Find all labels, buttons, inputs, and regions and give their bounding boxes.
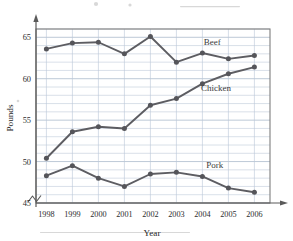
data-point [44, 173, 49, 178]
line-chart: 4550556065 19981999200020012002200320042… [0, 0, 293, 241]
data-point [174, 170, 179, 175]
data-point [44, 156, 49, 161]
x-tick-label: 2005 [220, 210, 236, 219]
x-axis-tick-labels: 199819992000200120022003200420052006 [38, 210, 262, 219]
y-axis-title: Pounds [5, 104, 15, 131]
data-point [252, 53, 257, 58]
x-tick-label: 2000 [90, 210, 106, 219]
data-point [200, 174, 205, 179]
x-axis-arrow [36, 200, 288, 205]
series-label-beef: Beef [204, 37, 221, 47]
series-label-pork: Pork [206, 160, 224, 170]
x-tick-label: 2003 [168, 210, 184, 219]
y-axis-tick-labels: 4550556065 [23, 33, 31, 208]
data-point [122, 51, 127, 56]
data-point [44, 46, 49, 51]
x-axis-title: Year [144, 228, 161, 238]
data-point [70, 129, 75, 134]
y-tick-label: 50 [23, 158, 31, 167]
data-point [226, 71, 231, 76]
chart-canvas: 4550556065 19981999200020012002200320042… [0, 0, 293, 241]
plot-frame [36, 29, 270, 203]
x-tick-label: 1998 [38, 210, 54, 219]
data-point [226, 56, 231, 61]
y-tick-label: 65 [23, 33, 31, 42]
y-tick-label: 45 [23, 199, 31, 208]
data-point [148, 34, 153, 39]
data-point [200, 51, 205, 56]
data-point [148, 103, 153, 108]
data-point [122, 126, 127, 131]
data-point [96, 124, 101, 129]
x-tick-label: 1999 [64, 210, 80, 219]
gridlines-minor-horizontal [36, 29, 270, 195]
x-tick-label: 2001 [116, 210, 132, 219]
series-label-chicken: Chicken [201, 83, 231, 93]
y-tick-label: 60 [23, 75, 31, 84]
gridlines-vertical [46, 29, 254, 203]
data-point [174, 96, 179, 101]
x-tick-label: 2004 [194, 210, 210, 219]
data-point [96, 176, 101, 181]
data-point [148, 172, 153, 177]
data-point [174, 60, 179, 65]
data-point [226, 186, 231, 191]
data-point [70, 41, 75, 46]
x-tick-label: 2006 [246, 210, 262, 219]
data-point [252, 65, 257, 70]
data-point [122, 184, 127, 189]
data-point [252, 190, 257, 195]
data-point [70, 163, 75, 168]
data-point [96, 40, 101, 45]
y-tick-label: 55 [23, 116, 31, 125]
x-tick-label: 2002 [142, 210, 158, 219]
